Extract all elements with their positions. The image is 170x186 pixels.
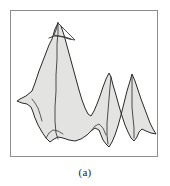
figure-caption: (a) <box>0 166 170 178</box>
fractal-mountain-plot <box>11 11 157 156</box>
figure-frame <box>10 10 158 157</box>
terrain-outline-shape <box>17 23 156 147</box>
figure-container: (a) <box>0 0 170 186</box>
